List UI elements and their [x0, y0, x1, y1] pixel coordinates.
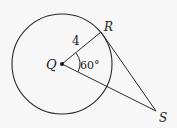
- label-Q: Q: [46, 57, 57, 72]
- label-S: S: [159, 111, 167, 125]
- radius-length-label: 4: [72, 34, 80, 48]
- angle-label: 60°: [80, 59, 100, 72]
- label-R: R: [103, 20, 113, 34]
- geometry-diagram: Q R S 4 60°: [0, 0, 177, 128]
- diagram-canvas: Q R S 4 60°: [0, 0, 177, 128]
- center-point-Q: [60, 62, 64, 66]
- segment-QS: [62, 64, 156, 111]
- segment-RS: [101, 32, 156, 111]
